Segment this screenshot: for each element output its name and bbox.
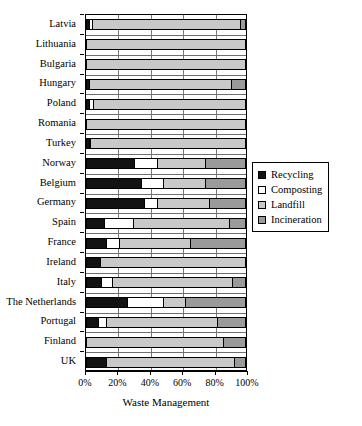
segment-recycling <box>87 278 101 287</box>
legend-label: Incineration <box>271 214 322 225</box>
y-tick <box>80 193 84 194</box>
legend-label: Landfill <box>271 199 305 210</box>
segment-landfill <box>87 120 245 129</box>
bar-spain <box>86 218 246 229</box>
legend-swatch-composting-icon <box>258 186 266 194</box>
y-tick <box>80 252 84 253</box>
bar-france <box>86 238 246 249</box>
segment-landfill <box>163 298 185 307</box>
y-axis-category-labels: LatviaLithuaniaBulgariaHungaryPolandRoma… <box>0 14 80 371</box>
x-tick-20 <box>117 371 118 375</box>
segment-incineration <box>232 278 245 287</box>
legend-item-recycling[interactable]: Recycling <box>258 167 322 182</box>
y-label-latvia: Latvia <box>0 18 80 29</box>
legend-label: Composting <box>271 184 322 195</box>
y-label-portugal: Portugal <box>0 315 80 326</box>
plot-area <box>85 14 247 371</box>
segment-landfill <box>106 358 234 367</box>
bar-italy <box>86 277 246 288</box>
segment-composting <box>98 318 106 327</box>
y-tick <box>80 292 84 293</box>
y-tick <box>80 34 84 35</box>
y-label-bulgaria: Bulgaria <box>0 58 80 69</box>
segment-landfill <box>106 318 217 327</box>
bar-finland <box>86 337 246 348</box>
y-label-italy: Italy <box>0 276 80 287</box>
segment-composting <box>104 219 132 228</box>
bar-romania <box>86 119 246 130</box>
segment-landfill <box>163 179 206 188</box>
bar-the-netherlands <box>86 297 246 308</box>
stacked-bars-container <box>86 15 246 370</box>
bar-latvia <box>86 19 246 30</box>
segment-incineration <box>185 298 245 307</box>
segment-recycling <box>87 199 144 208</box>
segment-incineration <box>205 159 245 168</box>
segment-landfill <box>133 219 229 228</box>
segment-incineration <box>231 80 245 89</box>
segment-recycling <box>87 358 106 367</box>
y-tick <box>80 312 84 313</box>
segment-recycling <box>87 239 106 248</box>
bar-uk <box>86 357 246 368</box>
segment-composting <box>127 298 163 307</box>
y-tick <box>80 173 84 174</box>
x-tick-0 <box>85 371 86 375</box>
y-label-lithuania: Lithuania <box>0 38 80 49</box>
y-tick <box>80 272 84 273</box>
bar-ireland <box>86 257 246 268</box>
segment-landfill <box>93 100 245 109</box>
x-tick-label-100: 100% <box>227 377 267 389</box>
x-axis-line <box>85 371 247 372</box>
segment-landfill <box>92 20 241 29</box>
legend-item-incineration[interactable]: Incineration <box>258 212 322 227</box>
legend-item-composting[interactable]: Composting <box>258 182 322 197</box>
y-tick <box>80 113 84 114</box>
bar-portugal <box>86 317 246 328</box>
y-label-france: France <box>0 236 80 247</box>
segment-landfill <box>87 40 245 49</box>
y-label-uk: UK <box>0 355 80 366</box>
segment-recycling <box>87 298 127 307</box>
y-tick <box>80 54 84 55</box>
segment-composting <box>106 239 119 248</box>
legend-item-landfill[interactable]: Landfill <box>258 197 322 212</box>
segment-recycling <box>87 159 134 168</box>
y-tick <box>80 351 84 352</box>
segment-landfill <box>100 258 245 267</box>
y-tick <box>80 93 84 94</box>
legend-swatch-incineration-icon <box>258 216 266 224</box>
bar-belgium <box>86 178 246 189</box>
legend-swatch-recycling-icon <box>258 171 266 179</box>
y-label-the-netherlands: The Netherlands <box>0 296 80 307</box>
segment-composting <box>134 159 156 168</box>
x-tick-100 <box>247 371 248 375</box>
y-label-poland: Poland <box>0 97 80 108</box>
segment-incineration <box>234 358 245 367</box>
segment-recycling <box>87 318 98 327</box>
segment-composting <box>101 278 112 287</box>
waste-management-stacked-bar-chart: LatviaLithuaniaBulgariaHungaryPolandRoma… <box>0 0 362 426</box>
segment-incineration <box>217 318 245 327</box>
y-label-finland: Finland <box>0 335 80 346</box>
segment-incineration <box>240 20 245 29</box>
y-tick <box>80 232 84 233</box>
bar-poland <box>86 99 246 110</box>
segment-landfill <box>119 239 190 248</box>
y-label-romania: Romania <box>0 117 80 128</box>
bar-germany <box>86 198 246 209</box>
segment-recycling <box>87 258 100 267</box>
y-tick <box>80 74 84 75</box>
y-tick <box>80 14 84 15</box>
segment-incineration <box>229 219 245 228</box>
bar-lithuania <box>86 39 246 50</box>
segment-composting <box>141 179 163 188</box>
segment-incineration <box>205 179 245 188</box>
segment-landfill <box>89 80 230 89</box>
x-axis-title: Waste Management <box>85 396 247 408</box>
y-label-germany: Germany <box>0 196 80 207</box>
y-tick <box>80 133 84 134</box>
x-tick-40 <box>150 371 151 375</box>
segment-landfill <box>157 159 206 168</box>
bar-norway <box>86 158 246 169</box>
